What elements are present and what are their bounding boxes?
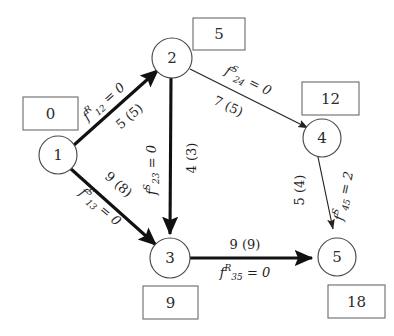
supply-box-node-3: 9 <box>143 286 198 319</box>
edge-3-5-cap-label: 9 (9) <box>230 237 261 252</box>
edge-2-3-flow-label: fS23 = 0 <box>142 145 161 196</box>
node-4-label: 4 <box>317 129 327 147</box>
edge-2-4-flow-eq: = 0 <box>243 72 274 98</box>
node-5-label: 5 <box>332 248 342 266</box>
supply-box-node-1: 0 <box>23 97 78 130</box>
diagram-svg: 0 5 9 12 18 1 2 3 <box>0 0 394 336</box>
node-3[interactable]: 3 <box>150 238 190 278</box>
edge-2-3-line <box>170 78 171 234</box>
node-2-label: 2 <box>167 49 177 67</box>
supply-box-node-5: 18 <box>328 285 385 318</box>
supply-value-1: 0 <box>46 105 56 123</box>
node-2[interactable]: 2 <box>152 38 192 78</box>
edge-3-5-cap-label-group: 9 (9) <box>230 237 261 252</box>
edge-1-3-cap-label: 9 (8) <box>102 168 135 200</box>
edge-3-5-flow-label-group: fR35 = 0 <box>219 263 270 282</box>
network-flow-diagram: 0 5 9 12 18 1 2 3 <box>0 0 394 336</box>
edge-4-5-flow-label: fS45 = 2 <box>328 169 357 223</box>
supply-value-3: 9 <box>166 294 176 312</box>
edge-2-3-flow-eq: = 0 <box>144 145 159 172</box>
edge-2-3-cap-label: 4 (3) <box>184 143 199 174</box>
node-4[interactable]: 4 <box>303 119 341 157</box>
edge-2-4-flow-label: fS24 = 0 <box>221 60 275 99</box>
supply-box-node-2: 5 <box>193 18 245 50</box>
supply-value-2: 5 <box>214 25 224 43</box>
edge-3-5-flow-sub: 35 <box>231 272 243 282</box>
supply-value-5: 18 <box>347 293 366 311</box>
edge-2-4-cap-label: 7 (5) <box>211 93 245 120</box>
edge-2-4-flow-label-group: fS24 = 0 <box>221 60 275 99</box>
edge-1-3-cap-label-group: 9 (8) <box>102 168 135 200</box>
node-5[interactable]: 5 <box>318 238 356 276</box>
edge-4-5-flow-sub: 45 <box>339 198 351 213</box>
node-3-label: 3 <box>165 249 175 267</box>
edge-2-3-flow-sub: 23 <box>151 172 161 185</box>
edge-2-3-flow-label-group: fS23 = 0 <box>142 145 161 196</box>
edge-2-4-cap-label-group: 7 (5) <box>211 93 245 120</box>
node-1-label: 1 <box>53 146 63 164</box>
supply-box-node-4: 12 <box>302 82 359 115</box>
edge-4-5-cap-label: 5 (4) <box>292 175 307 206</box>
edge-4-5-flow-label-group: fS45 = 2 <box>328 169 357 223</box>
edge-2-3-cap-label-group: 4 (3) <box>184 143 199 174</box>
node-1[interactable]: 1 <box>39 136 77 174</box>
edge-3-5-flow-label: fR35 = 0 <box>219 263 270 282</box>
supply-value-4: 12 <box>321 90 340 108</box>
edge-4-5-flow-eq: = 2 <box>335 170 355 200</box>
edge-3-5-flow-eq: = 0 <box>243 265 270 280</box>
edge-4-5-cap-label-group: 5 (4) <box>292 175 307 206</box>
edge-2-3 <box>170 78 171 234</box>
